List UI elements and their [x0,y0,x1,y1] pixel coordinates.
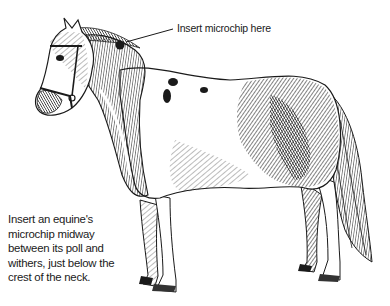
caption-line: microchip midway [8,227,138,242]
caption-text: Insert an equine's microchip midway betw… [8,212,138,285]
hind-legs [298,175,340,282]
caption-line: Insert an equine's [8,212,138,227]
callout-label: Insert microchip here [177,22,271,34]
caption-line: between its poll and [8,241,138,256]
body [120,68,341,199]
microchip-site-dot [116,41,125,50]
caption-line: crest of the neck. [8,270,138,285]
front-legs [139,195,176,292]
callout-line [126,29,173,42]
caption-line: withers, just below the [8,256,138,271]
eye-icon [56,55,64,61]
